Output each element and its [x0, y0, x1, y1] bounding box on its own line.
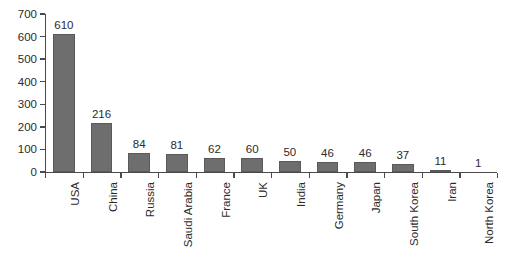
x-axis-category-label: Russia [144, 182, 156, 217]
y-axis-tick-mark [40, 126, 45, 127]
bar [279, 161, 301, 172]
x-axis-tick-mark [120, 173, 121, 178]
bar-value-label: 11 [422, 154, 460, 168]
bar [166, 154, 188, 172]
x-axis-category-label: Japan [370, 182, 382, 213]
bar [430, 170, 452, 172]
bar [317, 162, 339, 172]
x-axis-category-label: USA [69, 182, 81, 206]
bar-value-label: 1 [459, 156, 497, 170]
x-axis-tick-mark [83, 173, 84, 178]
y-axis-tick-label: 0 [31, 164, 37, 180]
x-axis-tick-mark [158, 173, 159, 178]
y-axis-tick-label: 100 [18, 141, 37, 157]
x-axis-tick-mark [422, 173, 423, 178]
bar-value-label: 610 [45, 18, 83, 32]
y-axis-tick-label: 300 [18, 96, 37, 112]
x-axis-category-label: China [107, 182, 119, 212]
y-axis-tick-label: 400 [18, 74, 37, 90]
x-axis-category-label: Germany [333, 182, 345, 229]
bar-value-label: 62 [196, 142, 234, 156]
x-axis-tick-mark [497, 173, 498, 178]
y-axis-tick-label: 700 [18, 6, 37, 22]
x-axis-category-label: France [220, 182, 232, 218]
bar-value-label: 60 [233, 142, 271, 156]
x-axis-category-label: Iran [446, 182, 458, 202]
bar [354, 162, 376, 172]
y-axis-tick-mark [40, 36, 45, 37]
x-axis-tick-mark [271, 173, 272, 178]
bar [204, 158, 226, 172]
x-axis-tick-mark [384, 173, 385, 178]
bar-value-label: 216 [83, 107, 121, 121]
x-axis-category-label: North Korea [483, 182, 495, 244]
x-axis-tick-mark [196, 173, 197, 178]
bar-value-label: 84 [120, 137, 158, 151]
x-axis-category-label: South Korea [408, 182, 420, 246]
bar [241, 158, 263, 172]
bar-value-label: 81 [158, 138, 196, 152]
bar [128, 153, 150, 172]
bar-value-label: 37 [384, 148, 422, 162]
x-axis-tick-mark [309, 173, 310, 178]
y-axis-tick-label: 200 [18, 119, 37, 135]
bar-chart: 0100200300400500600700 61021684816260504… [0, 0, 514, 257]
bar-value-label: 46 [346, 146, 384, 160]
bar [91, 123, 113, 172]
x-axis-category-label: India [295, 182, 307, 207]
x-axis-tick-mark [346, 173, 347, 178]
x-axis-tick-mark [459, 173, 460, 178]
y-axis-tick-mark [40, 58, 45, 59]
bar [392, 164, 414, 172]
bar-value-label: 46 [309, 146, 347, 160]
x-axis-tick-mark [45, 173, 46, 178]
x-axis-category-label: UK [257, 182, 269, 198]
y-axis-tick-mark [40, 104, 45, 105]
y-axis-tick-mark [40, 149, 45, 150]
y-axis-tick-mark [40, 81, 45, 82]
y-axis-tick-mark [40, 13, 45, 14]
bar [53, 34, 75, 172]
y-axis-line [45, 14, 46, 172]
x-axis-tick-mark [233, 173, 234, 178]
y-axis-tick-label: 500 [18, 51, 37, 67]
y-axis-tick-label: 600 [18, 29, 37, 45]
bar-value-label: 50 [271, 145, 309, 159]
x-axis-category-label: Saudi Arabia [182, 182, 194, 247]
